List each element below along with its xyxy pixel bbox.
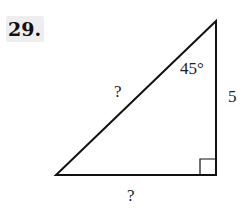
right-triangle-figure	[0, 0, 243, 209]
angle-label: 45°	[180, 60, 204, 77]
vertical-leg-label: 5	[228, 88, 237, 105]
right-angle-marker	[200, 159, 216, 175]
base-label: ?	[127, 187, 135, 204]
hypotenuse-label: ?	[114, 83, 122, 100]
triangle-outline	[56, 21, 216, 175]
